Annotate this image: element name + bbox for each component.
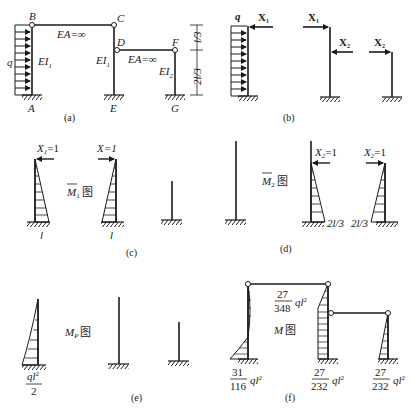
distributed-load-q <box>15 25 31 95</box>
m1-value-mid: l <box>110 229 113 241</box>
fixed-support-d1 <box>225 220 246 225</box>
x1-unit-label: X1=1 <box>36 142 59 156</box>
hinge-f-F <box>386 311 391 316</box>
hinge-f-D <box>329 311 334 316</box>
m-value-E-den: 232 <box>311 380 328 392</box>
m-value-top-ql2: ql2 <box>295 296 308 308</box>
node-C-label: C <box>117 12 125 24</box>
m2-triangle-right <box>371 163 385 222</box>
column-FG-stiffness: EI2 <box>158 65 173 80</box>
m-value-G-den: 232 <box>372 380 389 392</box>
hinge-F <box>173 48 178 53</box>
x2-label-b1: X2 <box>339 36 350 49</box>
beam-DF-stiffness: EA=∞ <box>127 53 157 65</box>
m-value-top-num: 27 <box>277 288 289 300</box>
node-G-label: G <box>171 102 179 114</box>
hinge-f-B <box>246 282 251 287</box>
dim-l3-label: l/3 <box>191 31 203 43</box>
x2-unit-label-b: X2=1 <box>363 146 386 160</box>
panel-a: q B C D F A E G <box>7 10 203 124</box>
fixed-support-G <box>165 95 185 100</box>
panel-f: 31 116 ql2 27 348 ql2 M图 27 232 ql2 <box>230 282 406 405</box>
m-value-G-ql2: ql2 <box>393 374 406 386</box>
structural-diagram: q B C D F A E G <box>0 0 419 416</box>
fixed-support-c1 <box>27 222 50 227</box>
beam-BC-stiffness: EA=∞ <box>56 28 86 40</box>
caption-d: (d) <box>280 243 292 255</box>
m-final-hatch-mid <box>318 291 328 354</box>
x1-label-b1: X1 <box>258 11 269 24</box>
distributed-load-q-b <box>231 26 247 96</box>
node-D-label: D <box>116 36 125 48</box>
m-diagram-title: M图 <box>273 324 296 336</box>
hinge-C <box>112 23 117 28</box>
m2-value-a: 2l/3 <box>327 217 345 229</box>
column-CE-stiffness: EI1 <box>95 54 110 69</box>
x2-label-b2: X2 <box>374 36 385 49</box>
m2-hatch-right <box>374 172 385 212</box>
fixed-support-E <box>104 95 124 100</box>
caption-c: (c) <box>126 247 137 259</box>
m2-value-b: 2l/3 <box>351 217 369 229</box>
m1-triangle-mid <box>102 159 116 222</box>
m-value-A-ql2: ql2 <box>250 374 263 386</box>
x-unit-label-mid: X=1 <box>96 142 117 154</box>
mp-diagram-title: MP图 <box>64 326 91 340</box>
fixed-support-f2 <box>318 359 338 364</box>
caption-b: (b) <box>283 112 295 124</box>
dim-2l3-label: 2l/3 <box>191 67 203 85</box>
hinge-D <box>115 48 120 53</box>
mp-parabola <box>22 299 38 365</box>
fixed-support-b2 <box>320 97 340 102</box>
m1-value-left: l <box>40 229 43 241</box>
m-value-top-den: 348 <box>274 302 291 314</box>
fixed-support-d3 <box>376 222 398 227</box>
fixed-support-f1 <box>238 359 258 364</box>
column-AB-stiffness: EI1 <box>37 55 52 70</box>
hinge-f-C <box>326 282 331 287</box>
m2-diagram-title: M2图 <box>261 175 288 189</box>
fixed-support-b1 <box>238 96 258 101</box>
hinge-B <box>30 23 35 28</box>
fixed-support-d2 <box>302 222 324 227</box>
fixed-support-A <box>22 95 42 100</box>
node-F-label: F <box>171 36 179 48</box>
m-value-E-ql2: ql2 <box>332 374 345 386</box>
node-A-label: A <box>27 102 35 114</box>
m2-hatch-mid <box>311 172 322 212</box>
fixed-support-c2 <box>101 222 124 227</box>
mp-value-den: 2 <box>31 385 37 397</box>
m-value-E-num: 27 <box>314 366 326 378</box>
m1-triangle-left <box>35 159 49 222</box>
fixed-support-f3 <box>378 359 398 364</box>
panel-b: q X1 X1 X2 X2 (b) <box>231 10 402 124</box>
panel-c: X1=1 l M1图 X=1 l (c) <box>27 142 182 259</box>
x1-label-b2: X1 <box>308 11 319 24</box>
caption-a: (a) <box>64 112 75 124</box>
node-B-label: B <box>29 10 36 22</box>
panel-e: ql2 2 MP图 (e) <box>22 297 189 404</box>
x2-unit-label-a: X2=1 <box>314 146 337 160</box>
fixed-support-e2 <box>108 364 129 369</box>
fixed-support-b3 <box>382 97 402 102</box>
m-final-right <box>379 313 388 359</box>
m2-triangle-mid <box>311 163 325 222</box>
node-E-label: E <box>109 102 117 114</box>
m1-diagram-title: M1图 <box>66 186 93 200</box>
mp-hatch <box>25 310 38 358</box>
load-q-label: q <box>7 56 13 68</box>
caption-f: (f) <box>285 392 295 404</box>
panel-d: M2图 X2=1 2l/3 X2=1 2l/3 <box>225 141 398 255</box>
load-q-label-b: q <box>235 10 241 22</box>
mp-value-num: ql2 <box>27 370 40 382</box>
fixed-support-e3 <box>168 361 189 366</box>
m-value-A-den: 116 <box>230 380 247 392</box>
fixed-support-c3 <box>161 220 182 225</box>
m-value-G-num: 27 <box>375 366 387 378</box>
caption-e: (e) <box>131 392 142 404</box>
m-value-A-num: 31 <box>232 366 243 378</box>
